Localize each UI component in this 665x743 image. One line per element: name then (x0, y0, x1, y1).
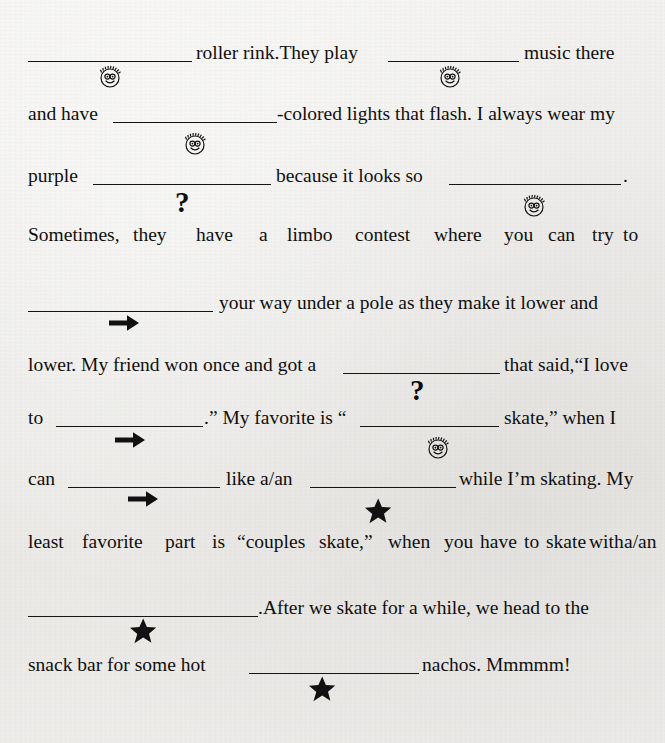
smiley-face-icon (437, 63, 463, 90)
star-icon (128, 617, 158, 646)
line-9-word: part (165, 529, 195, 555)
worksheet-page: roller rink.They play music there (0, 0, 665, 743)
blank-12[interactable] (28, 597, 258, 617)
blank-3[interactable] (113, 103, 277, 123)
story-line-2: and have -colored lights that flash. I a… (0, 101, 665, 127)
line-6-text-b: that said,“I love (504, 352, 628, 378)
blank-7[interactable] (343, 354, 500, 374)
line-9-word: when (388, 529, 430, 555)
story-line-4: Sometimes, they have a limbo contest whe… (0, 222, 665, 248)
blank-5[interactable] (449, 165, 621, 185)
blank-4[interactable] (93, 165, 271, 185)
right-arrow-icon (107, 312, 141, 334)
line-4-word: you (504, 222, 533, 248)
story-line-3: purple because it looks so . (0, 163, 665, 189)
line-4-word: limbo (287, 222, 333, 248)
smiley-face-icon (182, 130, 208, 157)
story-line-9: least favorite part is “couples skate,” … (0, 529, 665, 555)
line-1-text-a: roller rink.They play (196, 40, 358, 66)
line-9-word: skate,” (319, 529, 373, 555)
line-7-text-b: .” My favorite is “ (204, 405, 346, 431)
line-9-word: with (589, 529, 624, 555)
story-line-10: .After we skate for a while, we head to … (0, 595, 665, 621)
line-7-text-a: to (28, 405, 43, 431)
smiley-face-icon (425, 434, 451, 461)
story-line-8: can like a/an while I’m skating. My (0, 466, 665, 492)
line-8-text-a: can (28, 466, 55, 492)
question-mark-icon: ? (175, 188, 190, 217)
blank-11[interactable] (310, 468, 456, 488)
line-4-word: Sometimes, (28, 222, 120, 248)
blank-8[interactable] (56, 407, 203, 427)
line-10-text-b: .After we skate for a while, we head to … (258, 595, 589, 621)
line-11-text-a: snack bar for some hot (28, 652, 206, 678)
story-line-5: your way under a pole as they make it lo… (0, 290, 665, 316)
blank-9[interactable] (360, 407, 499, 427)
line-9-word: a/an (624, 529, 656, 555)
line-4-word: try (592, 222, 614, 248)
story-line-7: to .” My favorite is “ skate,” when I (0, 405, 665, 431)
line-11-text-b: nachos. Mmmmm! (422, 652, 570, 678)
story-line-6: lower. My friend won once and got a that… (0, 352, 665, 378)
line-9-word: to (524, 529, 539, 555)
line-9-word: favorite (82, 529, 143, 555)
blank-6[interactable] (28, 292, 213, 312)
right-arrow-icon (126, 488, 160, 510)
blank-1[interactable] (28, 42, 192, 62)
star-icon (307, 675, 337, 704)
line-3-text-a: purple (28, 163, 78, 189)
star-icon (363, 497, 393, 526)
line-8-text-b: like a/an (226, 466, 293, 492)
line-6-text-a: lower. My friend won once and got a (28, 352, 316, 378)
blank-10[interactable] (68, 468, 220, 488)
line-4-word: contest (355, 222, 410, 248)
line-9-word: is (212, 529, 225, 555)
line-4-word: they (133, 222, 167, 248)
line-4-word: a (259, 222, 268, 248)
line-3-text-b: because it looks so (276, 163, 423, 189)
line-8-text-c: while I’m skating. My (459, 466, 633, 492)
line-9-word: least (28, 529, 64, 555)
smiley-face-icon (97, 63, 123, 90)
line-9-word: have (480, 529, 517, 555)
line-3-text-c: . (623, 163, 628, 189)
line-7-text-c: skate,” when I (504, 405, 616, 431)
line-5-text-b: your way under a pole as they make it lo… (219, 290, 598, 316)
line-2-text-b: -colored lights that flash. I always wea… (277, 101, 615, 127)
line-9-word: skate (546, 529, 586, 555)
line-2-text-a: and have (28, 101, 98, 127)
line-4-word: where (434, 222, 482, 248)
line-9-word: you (444, 529, 473, 555)
right-arrow-icon (113, 429, 147, 451)
line-4-word: have (196, 222, 233, 248)
line-1-text-b: music there (524, 40, 614, 66)
line-9-word: “couples (237, 529, 305, 555)
blank-13[interactable] (249, 654, 419, 674)
blank-2[interactable] (388, 42, 519, 62)
question-mark-icon: ? (410, 376, 425, 405)
line-4-word: can (548, 222, 575, 248)
line-4-word: to (623, 222, 638, 248)
smiley-face-icon (521, 192, 547, 219)
